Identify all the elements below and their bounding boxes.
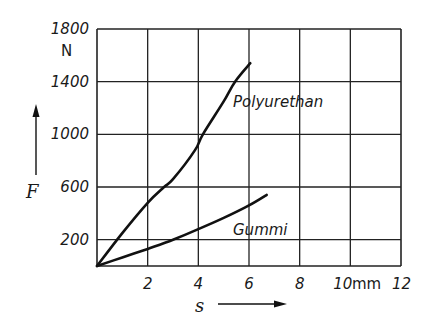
series-label-gummi: Gummi xyxy=(233,221,288,239)
x-tick-label-2: 2 xyxy=(143,275,153,293)
y-tick-label-600: 600 xyxy=(60,178,89,196)
x-tick-label-6: 6 xyxy=(244,275,254,293)
series-line-polyurethan xyxy=(97,63,250,266)
y-axis-label: F xyxy=(25,181,40,202)
x-tick-label-8: 8 xyxy=(295,275,305,293)
force-displacement-chart: 200600100014001800 24681012 N mm F s Pol… xyxy=(0,0,427,325)
series-label-polyurethan: Polyurethan xyxy=(233,93,323,111)
y-tick-label-1800: 1800 xyxy=(51,20,89,38)
y-tick-label-200: 200 xyxy=(60,231,89,249)
y-tick-label-1000: 1000 xyxy=(51,125,89,143)
x-tick-label-4: 4 xyxy=(194,275,204,293)
x-tick-label-12: 12 xyxy=(392,275,411,293)
x-axis-arrow-icon xyxy=(274,301,287,308)
y-tick-label-1400: 1400 xyxy=(51,73,89,91)
x-axis-label: s xyxy=(195,295,204,316)
y-unit-label: N xyxy=(61,42,72,60)
x-unit-label: mm xyxy=(352,275,381,293)
x-tick-label-10: 10 xyxy=(333,275,352,293)
y-axis-arrow-icon xyxy=(33,104,40,117)
